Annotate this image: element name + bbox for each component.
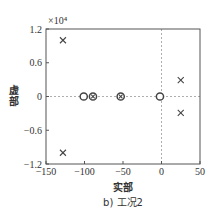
y-axis-label: 虚部 bbox=[9, 84, 19, 107]
x-axis-label: 实部 bbox=[113, 181, 133, 193]
y-tick-label: 0.6 bbox=[30, 57, 43, 68]
y-exponent-label: ×10⁴ bbox=[48, 15, 68, 26]
x-tick-label: −50 bbox=[115, 166, 131, 177]
y-tick-label: −1.2 bbox=[24, 159, 42, 170]
x-tick-label: 50 bbox=[195, 166, 205, 177]
pole-zero-chart: −150−100−500501.20.60−0.6−1.2 ×10⁴ 实部 虚部… bbox=[0, 0, 214, 218]
y-tick-label: −0.6 bbox=[24, 125, 42, 136]
axis-ticks: −150−100−500501.20.60−0.6−1.2 bbox=[24, 24, 205, 178]
y-tick-label: 0 bbox=[37, 91, 42, 102]
chart-caption: b) 工况2 bbox=[103, 197, 143, 208]
x-tick-label: −100 bbox=[74, 166, 95, 177]
y-tick-label: 1.2 bbox=[30, 24, 43, 35]
x-tick-label: 0 bbox=[159, 166, 164, 177]
